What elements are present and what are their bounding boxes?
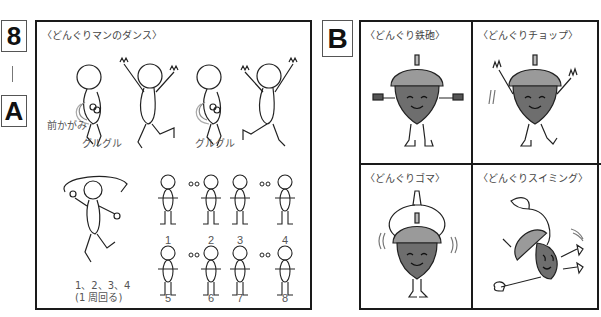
part-a-label: A xyxy=(5,96,24,127)
part-b-badge: B xyxy=(322,20,353,57)
cell-acorn-spin: 〈どんぐりゴマ〉 xyxy=(361,165,473,310)
figure-arms-up-icon xyxy=(227,54,307,154)
acorn-swim-icon xyxy=(481,187,591,302)
step-number-6: 6 xyxy=(208,292,214,304)
annotation-spin-1: グルグル xyxy=(82,135,122,150)
annotation-one-lap: (1 周回る) xyxy=(75,289,122,304)
step-number-1: 1 xyxy=(165,234,171,246)
step-number-3: 3 xyxy=(237,234,243,246)
panel-acorn-moves: 〈どんぐり鉄砲〉 〈どんぐりチョップ〉 xyxy=(359,20,599,310)
cell-acorn-swim: 〈どんぐりスイミング〉 xyxy=(473,165,601,310)
step-number-4: 4 xyxy=(282,234,288,246)
figure-spinning-icon xyxy=(55,172,135,282)
panel-dance-title: 〈どんぐりマンのダンス〉 xyxy=(42,27,162,42)
part-b-label: B xyxy=(327,23,347,55)
cell-title-gun: 〈どんぐり鉄砲〉 xyxy=(365,27,445,42)
step-number-7: 7 xyxy=(237,292,243,304)
step-figures-grid-icon xyxy=(154,170,314,305)
separator-line xyxy=(12,66,13,82)
acorn-spin-icon xyxy=(371,187,466,302)
cell-title-chop: 〈どんぐりチョップ〉 xyxy=(478,27,578,42)
acorn-gun-icon xyxy=(371,50,466,155)
annotation-lean-forward: 前かがみ xyxy=(47,117,87,132)
part-a-badge: A xyxy=(1,95,27,127)
step-number-2: 2 xyxy=(208,234,214,246)
cell-title-swim: 〈どんぐりスイミング〉 xyxy=(478,170,588,185)
cell-acorn-gun: 〈どんぐり鉄砲〉 xyxy=(361,22,473,165)
figure-arms-up-icon xyxy=(112,54,192,154)
step-number-8: 8 xyxy=(282,292,288,304)
step-number-5: 5 xyxy=(165,292,171,304)
panel-dance: 〈どんぐりマンのダンス〉 xyxy=(35,20,312,310)
acorn-chop-icon xyxy=(481,50,581,155)
cell-title-spin: 〈どんぐりゴマ〉 xyxy=(365,170,445,185)
cell-acorn-chop: 〈どんぐりチョップ〉 xyxy=(473,22,601,165)
annotation-spin-2: グルグル xyxy=(195,135,235,150)
section-number-badge: 8 xyxy=(1,20,27,52)
section-number: 8 xyxy=(7,21,21,52)
